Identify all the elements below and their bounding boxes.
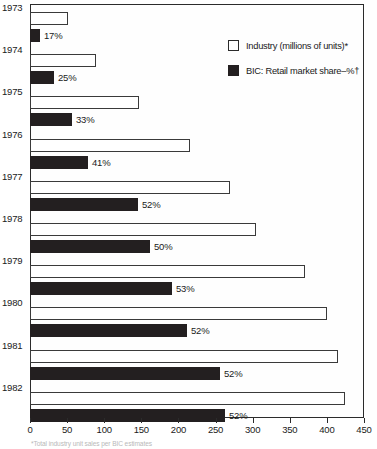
x-axis-tick (67, 418, 68, 423)
x-axis: 050100150200250300350400450 (30, 418, 364, 442)
market-share-value-label: 50% (154, 241, 172, 252)
market-share-bar (30, 240, 150, 253)
legend-item-industry: Industry (millions of units)* (228, 40, 359, 51)
industry-bar (30, 54, 96, 67)
x-axis-tick-label: 250 (208, 424, 223, 435)
market-share-bar (30, 198, 138, 211)
x-axis-tick (364, 418, 365, 423)
x-axis-tick-label: 400 (319, 424, 334, 435)
x-axis-tick-label: 200 (171, 424, 186, 435)
bar-chart: 197317%197425%197533%197641%197752%19785… (0, 0, 377, 449)
market-share-bar (30, 113, 72, 126)
market-share-bar (30, 324, 187, 337)
market-share-bar (30, 29, 40, 42)
x-axis-tick-label: 100 (97, 424, 112, 435)
x-axis-tick-label: 300 (245, 424, 260, 435)
industry-bar (30, 392, 345, 405)
legend-item-label: Industry (millions of units)* (246, 41, 348, 51)
x-axis-tick-label: 450 (356, 424, 371, 435)
x-axis-tick (290, 418, 291, 423)
industry-bar (30, 350, 338, 363)
industry-bar (30, 181, 230, 194)
market-share-value-label: 52% (224, 368, 242, 379)
x-axis-tick-label: 350 (282, 424, 297, 435)
x-axis-tick-label: 150 (134, 424, 149, 435)
x-axis-tick-label: 50 (62, 424, 72, 435)
market-share-value-label: 52% (191, 325, 209, 336)
market-share-value-label: 52% (142, 199, 160, 210)
open-square-icon (228, 40, 239, 51)
legend-item-label: BIC: Retail market share–%† (246, 66, 359, 76)
x-axis-tick (327, 418, 328, 423)
industry-bar (30, 96, 139, 109)
market-share-bar (30, 71, 54, 84)
filled-square-icon (228, 65, 239, 76)
market-share-bar (30, 282, 172, 295)
market-share-value-label: 33% (76, 114, 94, 125)
x-axis-tick (30, 418, 31, 423)
market-share-bar (30, 367, 220, 380)
market-share-value-label: 41% (92, 157, 110, 168)
industry-bar (30, 265, 305, 278)
market-share-value-label: 17% (44, 30, 62, 41)
industry-bar (30, 307, 327, 320)
legend-item-market-share: BIC: Retail market share–%† (228, 65, 359, 76)
chart-footnote: *Total industry unit sales per BIC estim… (31, 440, 152, 447)
x-axis-tick-label: 0 (27, 424, 32, 435)
market-share-value-label: 25% (58, 72, 76, 83)
industry-bar (30, 223, 256, 236)
x-axis-tick (141, 418, 142, 423)
industry-bar (30, 139, 190, 152)
x-axis-tick (104, 418, 105, 423)
x-axis-tick (253, 418, 254, 423)
industry-bar (30, 12, 68, 25)
x-axis-tick (178, 418, 179, 423)
x-axis-tick (216, 418, 217, 423)
market-share-bar (30, 156, 88, 169)
chart-legend: Industry (millions of units)* BIC: Retai… (228, 40, 359, 90)
market-share-value-label: 53% (176, 283, 194, 294)
